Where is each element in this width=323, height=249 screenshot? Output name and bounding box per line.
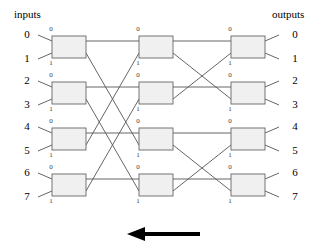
- switch-box[interactable]: [52, 174, 86, 196]
- switch-port-label-bottom: 1: [134, 197, 142, 205]
- switch-box[interactable]: [52, 82, 86, 104]
- output-stub: [265, 145, 279, 151]
- input-label-6: 6: [21, 166, 33, 178]
- switch-port-label-bottom: 1: [47, 151, 55, 159]
- direction-arrow: [127, 227, 200, 241]
- input-stub: [38, 173, 52, 179]
- switch-box[interactable]: [139, 128, 173, 150]
- switch-port-label-bottom: 1: [134, 59, 142, 67]
- output-label-5: 5: [289, 144, 301, 156]
- input-stub: [38, 35, 52, 41]
- switch-port-label-top: 0: [134, 163, 142, 171]
- input-label-1: 1: [21, 52, 33, 64]
- switch-port-label-top: 0: [226, 71, 234, 79]
- switch-box[interactable]: [139, 82, 173, 104]
- output-label-1: 1: [289, 52, 301, 64]
- outputs-title: outputs: [272, 8, 304, 20]
- input-label-0: 0: [21, 28, 33, 40]
- input-label-5: 5: [21, 144, 33, 156]
- output-stub: [265, 173, 279, 179]
- switch-port-label-bottom: 1: [226, 197, 234, 205]
- input-stub: [38, 81, 52, 87]
- switch-box[interactable]: [52, 36, 86, 58]
- input-label-7: 7: [21, 190, 33, 202]
- switch-port-label-top: 0: [47, 163, 55, 171]
- switch-box[interactable]: [139, 36, 173, 58]
- output-stub: [265, 53, 279, 59]
- input-stub: [38, 127, 52, 133]
- input-label-4: 4: [21, 120, 33, 132]
- switch-port-label-top: 0: [226, 25, 234, 33]
- switch-port-label-bottom: 1: [47, 59, 55, 67]
- switch-port-label-bottom: 1: [134, 105, 142, 113]
- switch-box[interactable]: [231, 82, 265, 104]
- switch-port-label-top: 0: [47, 117, 55, 125]
- output-label-6: 6: [289, 166, 301, 178]
- output-stub: [265, 35, 279, 41]
- switch-port-label-top: 0: [226, 163, 234, 171]
- output-label-4: 4: [289, 120, 301, 132]
- switch-port-label-top: 0: [226, 117, 234, 125]
- input-label-3: 3: [21, 98, 33, 110]
- output-label-0: 0: [289, 28, 301, 40]
- output-stub: [265, 191, 279, 197]
- output-label-2: 2: [289, 74, 301, 86]
- switch-port-label-top: 0: [134, 71, 142, 79]
- output-stub: [265, 81, 279, 87]
- switch-box[interactable]: [52, 128, 86, 150]
- switch-port-label-bottom: 1: [134, 151, 142, 159]
- switch-port-label-bottom: 1: [226, 105, 234, 113]
- output-stub: [265, 127, 279, 133]
- switch-port-label-bottom: 1: [226, 151, 234, 159]
- switch-port-label-bottom: 1: [226, 59, 234, 67]
- output-stub: [265, 99, 279, 105]
- switch-port-label-top: 0: [134, 117, 142, 125]
- links-layer: [38, 35, 279, 197]
- output-label-3: 3: [289, 98, 301, 110]
- switch-port-label-top: 0: [47, 71, 55, 79]
- switch-box[interactable]: [231, 36, 265, 58]
- switch-port-label-bottom: 1: [47, 197, 55, 205]
- switch-box[interactable]: [139, 174, 173, 196]
- inputs-title: inputs: [14, 8, 41, 20]
- switch-box[interactable]: [231, 128, 265, 150]
- switch-port-label-top: 0: [47, 25, 55, 33]
- switch-port-label-bottom: 1: [47, 105, 55, 113]
- butterfly-network-diagram: inputs outputs 0123456701234567 01010101…: [0, 0, 323, 249]
- switch-port-label-top: 0: [134, 25, 142, 33]
- input-label-2: 2: [21, 74, 33, 86]
- output-label-7: 7: [289, 190, 301, 202]
- switch-box[interactable]: [231, 174, 265, 196]
